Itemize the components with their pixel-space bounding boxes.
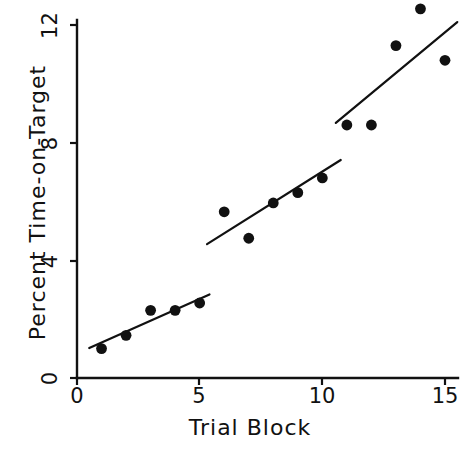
data-point — [292, 187, 303, 198]
data-point — [391, 40, 402, 51]
x-tick-label-0: 0 — [63, 386, 91, 407]
axis-lines — [77, 20, 458, 378]
data-point — [145, 305, 156, 316]
x-tick-label-10: 10 — [306, 386, 338, 407]
data-point — [121, 330, 132, 341]
y-tick-label-0: 0 — [40, 365, 61, 393]
x-axis-title: Trial Block — [135, 415, 365, 440]
data-point — [243, 233, 254, 244]
regression-line-1 — [89, 294, 209, 348]
data-point — [440, 55, 451, 66]
scatter-plot-figure: 12 8 4 0 0 5 10 15 Percent Time-on-Targe… — [0, 0, 473, 454]
data-points — [96, 3, 450, 354]
regression-lines — [89, 22, 457, 348]
data-point — [170, 305, 181, 316]
data-point — [268, 198, 279, 209]
regression-line-3 — [336, 22, 457, 123]
data-point — [317, 173, 328, 184]
x-tick-label-5: 5 — [185, 386, 213, 407]
y-tick-label-12: 12 — [40, 12, 61, 40]
data-point — [96, 343, 107, 354]
data-point — [341, 120, 352, 131]
data-point — [194, 298, 205, 309]
data-point — [366, 120, 377, 131]
y-axis-title: Percent Time-on-Target — [25, 58, 50, 348]
data-point — [219, 206, 230, 217]
data-point — [415, 3, 426, 14]
x-tick-label-15: 15 — [429, 386, 461, 407]
